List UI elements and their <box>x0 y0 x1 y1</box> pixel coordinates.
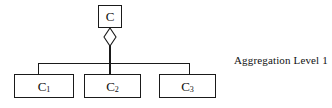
class-node-child-1-label: C1 <box>38 80 51 93</box>
class-node-child-3-base: C <box>181 79 190 94</box>
class-node-child-2-label: C2 <box>106 80 119 93</box>
class-node-child-2-subscript: 2 <box>115 85 119 94</box>
class-node-child-2[interactable]: C2 <box>84 74 141 98</box>
diagram-caption: Aggregation Level 1 <box>234 54 330 66</box>
aggregation-diamond-icon <box>104 28 116 46</box>
class-node-child-1-subscript: 1 <box>46 85 50 94</box>
class-node-root-label: C <box>106 10 115 23</box>
class-node-child-3[interactable]: C3 <box>159 74 216 98</box>
class-node-child-3-label: C3 <box>181 80 194 93</box>
class-node-child-1-base: C <box>38 79 47 94</box>
diagram-canvas: C C1 C2 C3 Aggregation Level 1 <box>0 0 332 108</box>
class-node-child-3-subscript: 3 <box>190 85 194 94</box>
class-node-child-1[interactable]: C1 <box>14 74 74 98</box>
class-node-child-2-base: C <box>106 79 115 94</box>
class-node-root[interactable]: C <box>98 5 122 28</box>
